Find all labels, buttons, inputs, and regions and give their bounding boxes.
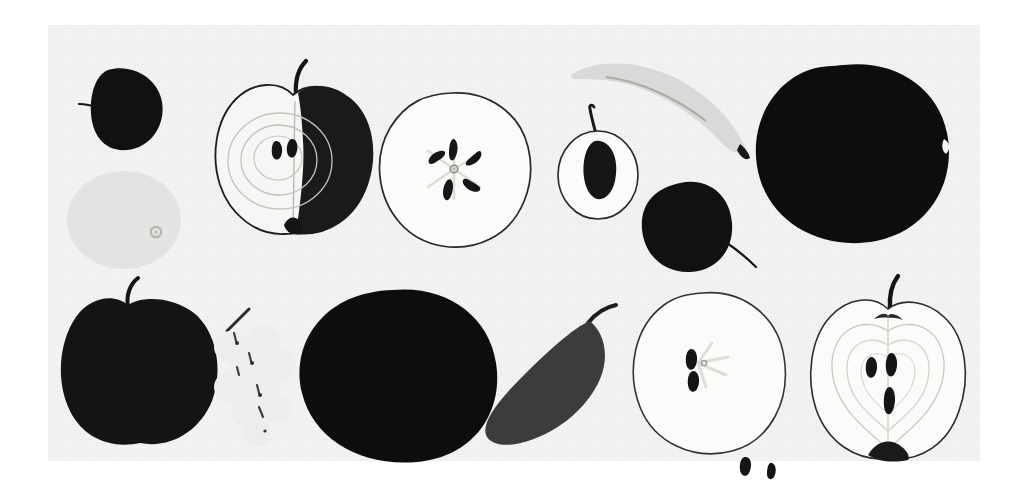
pear-stem-icon: [588, 305, 616, 323]
figure-apple-transverse: [368, 89, 543, 254]
figure-apple-half-shaded: [188, 57, 398, 257]
figure-apple-half-core: [798, 273, 983, 478]
banana-body: [571, 63, 746, 152]
loose-seed: [767, 463, 776, 479]
plum-body: [91, 68, 163, 150]
figure-banana: [560, 51, 760, 166]
figure-apple-transverse-two: [620, 287, 810, 482]
apple-half-shadow: [296, 86, 372, 233]
illustration-plate: [0, 0, 1028, 490]
grape-berries: [214, 325, 296, 446]
grape-stem-icon: [227, 309, 249, 331]
loose-seed: [740, 457, 751, 476]
paper-panel: [48, 25, 980, 461]
pear-body: [485, 321, 605, 445]
figure-pear-wedge: [480, 297, 640, 457]
figure-dark-plum-stem: [70, 60, 180, 165]
figure-dark-cherry-stem: [630, 175, 765, 285]
mango-body: [756, 64, 949, 243]
grapefruit-body: [67, 171, 181, 269]
melon-body: [300, 289, 498, 462]
figure-large-dark-oval: [748, 59, 963, 254]
dark-cherry-body: [642, 182, 732, 272]
figure-dark-round-blob: [293, 287, 508, 467]
figure-pale-orange: [62, 165, 192, 275]
apple-slice-two-outline: [633, 293, 785, 454]
